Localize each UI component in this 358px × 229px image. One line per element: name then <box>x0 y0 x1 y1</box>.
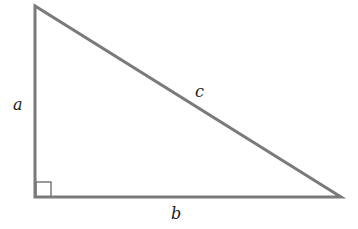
side-label-c: c <box>195 82 204 101</box>
right-triangle-diagram: a c b <box>0 0 358 229</box>
right-angle-marker <box>36 182 51 197</box>
side-label-b: b <box>171 204 181 223</box>
side-label-a: a <box>13 95 23 114</box>
triangle <box>35 6 341 197</box>
